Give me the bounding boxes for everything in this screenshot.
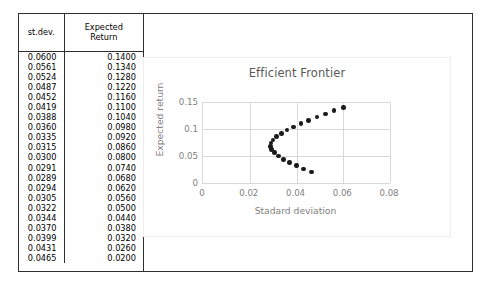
cell-expected-return: 0.0380 [64, 223, 143, 233]
cell-stdev: 0.0305 [19, 193, 64, 203]
table-row: 0.03050.0560 [19, 193, 143, 203]
table-row: 0.03880.1040 [19, 112, 143, 122]
table-row: 0.03220.0500 [19, 203, 143, 213]
cell-expected-return: 0.0560 [64, 193, 143, 203]
cell-expected-return: 0.0260 [64, 243, 143, 253]
cell-expected-return: 0.0920 [64, 132, 143, 142]
table-row: 0.04520.1160 [19, 92, 143, 102]
gridline-vertical [343, 102, 344, 183]
data-point [285, 128, 290, 133]
table-row: 0.02890.0680 [19, 173, 143, 183]
table-row: 0.06000.1400 [19, 52, 143, 63]
y-tick-label: 0.15 [179, 97, 198, 107]
column-header-expected-return: Expected Return [64, 14, 143, 52]
table-row: 0.04310.0260 [19, 243, 143, 253]
cell-stdev: 0.0465 [19, 253, 64, 263]
data-point [315, 115, 320, 120]
cell-stdev: 0.0399 [19, 233, 64, 243]
table-row: 0.03990.0320 [19, 233, 143, 243]
cell-expected-return: 0.0320 [64, 233, 143, 243]
x-tick-label: 0 [199, 188, 204, 198]
cell-stdev: 0.0388 [19, 112, 64, 122]
cell-expected-return: 0.1160 [64, 92, 143, 102]
cell-expected-return: 0.0740 [64, 163, 143, 173]
chart-title: Efficient Frontier [144, 66, 450, 80]
cell-stdev: 0.0600 [19, 52, 64, 63]
column-header-stdev-label: st.dev. [28, 27, 55, 37]
data-point [301, 167, 306, 172]
column-header-expected-return-line1: Expected [85, 22, 123, 32]
cell-stdev: 0.0561 [19, 62, 64, 72]
column-header-stdev: st.dev. [19, 14, 64, 52]
stdev-return-table: st.dev. Expected Return 0.06000.14000.05… [19, 14, 143, 263]
cell-stdev: 0.0315 [19, 142, 64, 152]
table-body: 0.06000.14000.05610.13400.05240.12800.04… [19, 52, 143, 263]
cell-stdev: 0.0289 [19, 173, 64, 183]
data-point [287, 160, 292, 165]
table-row: 0.05240.1280 [19, 72, 143, 82]
table-row: 0.03000.0800 [19, 152, 143, 162]
table-row: 0.04190.1100 [19, 102, 143, 112]
table-row: 0.03350.0920 [19, 132, 143, 142]
table-row: 0.02940.0620 [19, 183, 143, 193]
data-table: st.dev. Expected Return 0.06000.14000.05… [18, 13, 144, 272]
cell-stdev: 0.0452 [19, 92, 64, 102]
y-tick-label: 0.1 [184, 124, 198, 134]
table-row: 0.02910.0740 [19, 163, 143, 173]
cell-stdev: 0.0487 [19, 82, 64, 92]
table-row: 0.03150.0860 [19, 142, 143, 152]
gridline-vertical [250, 102, 251, 183]
cell-stdev: 0.0322 [19, 203, 64, 213]
cell-stdev: 0.0431 [19, 243, 64, 253]
x-axis-label: Stadard deviation [202, 205, 389, 216]
table-row: 0.03440.0440 [19, 213, 143, 223]
cell-stdev: 0.0335 [19, 132, 64, 142]
column-header-expected-return-line2: Return [90, 32, 117, 42]
cell-stdev: 0.0360 [19, 122, 64, 132]
cell-expected-return: 0.0680 [64, 173, 143, 183]
data-point [323, 112, 328, 117]
table-header-row: st.dev. Expected Return [19, 14, 143, 52]
gridline-vertical [390, 102, 391, 183]
cell-expected-return: 0.1040 [64, 112, 143, 122]
cell-expected-return: 0.1400 [64, 52, 143, 63]
data-point [274, 134, 279, 139]
y-tick-label: 0 [193, 178, 198, 188]
table-row: 0.04870.1220 [19, 82, 143, 92]
data-point [341, 105, 346, 110]
gridline-vertical [297, 102, 298, 183]
cell-expected-return: 0.0440 [64, 213, 143, 223]
cell-expected-return: 0.1280 [64, 72, 143, 82]
cell-expected-return: 0.0500 [64, 203, 143, 213]
cell-stdev: 0.0291 [19, 163, 64, 173]
y-axis-ticks: 00.050.10.15 [162, 102, 198, 183]
data-point [299, 121, 304, 126]
cell-stdev: 0.0300 [19, 152, 64, 162]
plot-area [202, 102, 390, 184]
x-axis-ticks: 00.020.040.060.08 [202, 188, 389, 202]
x-tick-label: 0.08 [379, 188, 398, 198]
data-point [276, 154, 281, 159]
cell-expected-return: 0.1100 [64, 102, 143, 112]
cell-stdev: 0.0524 [19, 72, 64, 82]
data-point [332, 108, 337, 113]
cell-expected-return: 0.1220 [64, 82, 143, 92]
table-row: 0.03700.0380 [19, 223, 143, 233]
cell-stdev: 0.0294 [19, 183, 64, 193]
data-point [281, 157, 286, 162]
table-row: 0.04650.0200 [19, 253, 143, 263]
cell-expected-return: 0.0980 [64, 122, 143, 132]
table-row: 0.03600.0980 [19, 122, 143, 132]
data-point [291, 125, 296, 130]
chart-container: Efficient Frontier Expected return 00.05… [143, 57, 451, 237]
data-point [306, 118, 311, 123]
y-tick-label: 0.05 [179, 151, 198, 161]
data-point [279, 131, 284, 136]
x-tick-label: 0.04 [286, 188, 305, 198]
cell-expected-return: 0.0200 [64, 253, 143, 263]
table-row: 0.05610.1340 [19, 62, 143, 72]
x-tick-label: 0.02 [239, 188, 258, 198]
x-tick-label: 0.06 [333, 188, 352, 198]
cell-expected-return: 0.0620 [64, 183, 143, 193]
cell-expected-return: 0.0860 [64, 142, 143, 152]
